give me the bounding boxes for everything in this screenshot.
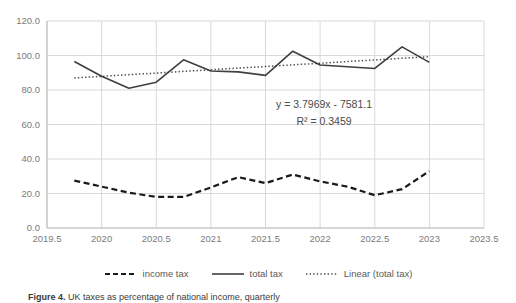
line-chart: 0.020.040.060.080.0100.0120.02019.520202… <box>0 0 516 250</box>
y-axis-tick-label: 20.0 <box>22 188 41 199</box>
figure-caption: Figure 4. UK taxes as percentage of nati… <box>28 292 280 302</box>
legend-item-income-tax[interactable]: income tax <box>104 268 189 279</box>
y-axis-tick-label: 60.0 <box>22 119 41 130</box>
trendline-equation-label: y = 3.7969x - 7581.1 <box>276 98 372 110</box>
y-axis-tick-label: 0.0 <box>27 222 40 233</box>
legend-label-income-tax: income tax <box>143 268 189 279</box>
chart-legend: income tax total tax Linear (total tax) <box>0 268 516 279</box>
y-axis-tick-label: 80.0 <box>22 84 41 95</box>
legend-label-linear-total-tax: Linear (total tax) <box>344 268 413 279</box>
series-line-total-tax <box>74 47 429 88</box>
x-axis-tick-label: 2021 <box>200 233 221 244</box>
legend-item-linear-total-tax[interactable]: Linear (total tax) <box>305 268 413 279</box>
figure-caption-label: Figure 4. <box>28 292 66 302</box>
legend-label-total-tax: total tax <box>250 268 283 279</box>
x-axis-tick-label: 2019.5 <box>32 233 61 244</box>
x-axis-tick-label: 2020.5 <box>142 233 171 244</box>
x-axis-tick-label: 2022.5 <box>360 233 389 244</box>
x-axis-tick-label: 2021.5 <box>251 233 280 244</box>
legend-swatch-solid <box>211 269 245 279</box>
y-axis-tick-label: 120.0 <box>16 15 40 26</box>
x-axis-tick-label: 2022 <box>310 233 331 244</box>
x-axis-tick-label: 2020 <box>91 233 112 244</box>
figure-container: 0.020.040.060.080.0100.0120.02019.520202… <box>0 0 516 303</box>
x-axis-tick-label: 2023 <box>419 233 440 244</box>
y-axis-tick-label: 100.0 <box>16 50 40 61</box>
legend-swatch-dotted <box>305 269 339 279</box>
figure-caption-text: UK taxes as percentage of national incom… <box>68 292 280 302</box>
y-axis-tick-label: 40.0 <box>22 153 41 164</box>
legend-swatch-dashed <box>104 269 138 279</box>
r-squared-label: R² = 0.3459 <box>296 115 351 127</box>
legend-item-total-tax[interactable]: total tax <box>211 268 283 279</box>
x-axis-tick-label: 2023.5 <box>469 233 498 244</box>
